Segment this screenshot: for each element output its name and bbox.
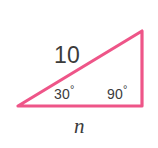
angle-label-left: 30°: [54, 84, 75, 101]
angle-right-value: 90: [107, 86, 123, 102]
angle-left-value: 30: [54, 86, 70, 102]
angle-label-right: 90°: [107, 84, 128, 101]
degree-icon-left: °: [70, 83, 75, 95]
hypotenuse-label: 10: [54, 44, 80, 67]
degree-icon-right: °: [123, 83, 128, 95]
triangle-figure: 10 30° 90° n: [0, 0, 158, 148]
base-label: n: [74, 116, 85, 137]
